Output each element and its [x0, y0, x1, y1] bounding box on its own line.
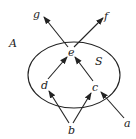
edge-e-g — [44, 17, 68, 47]
edge-a-c — [101, 92, 124, 118]
edge-c-e — [75, 57, 93, 81]
edge-e-f — [74, 18, 103, 47]
node-c: c — [92, 81, 98, 94]
node-g: g — [33, 8, 40, 21]
node-b: b — [68, 124, 75, 137]
node-e: e — [68, 46, 75, 59]
node-a: a — [124, 117, 131, 130]
node-f: f — [103, 10, 110, 23]
label-set-s: S — [95, 55, 103, 68]
node-d: d — [41, 79, 48, 92]
label-set-a: A — [8, 37, 17, 50]
diagram-canvas: A S e g f d c b a — [0, 0, 136, 139]
edge-d-e — [48, 57, 67, 79]
